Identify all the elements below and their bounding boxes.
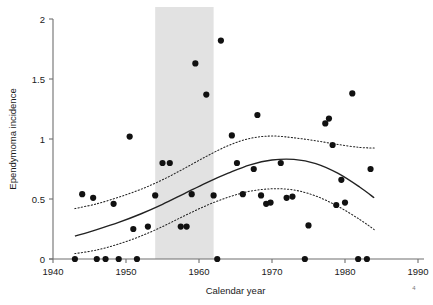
y-tick-label: 2: [40, 14, 45, 25]
x-axis-title: Calendar year: [206, 285, 266, 296]
data-point: [189, 191, 195, 197]
data-point: [203, 92, 209, 98]
data-point: [254, 112, 260, 118]
data-point: [178, 224, 184, 230]
data-point: [258, 192, 264, 198]
data-point: [116, 256, 122, 262]
data-point: [251, 166, 257, 172]
data-point: [305, 222, 311, 228]
data-point: [355, 256, 361, 262]
data-point: [72, 256, 78, 262]
data-point: [302, 256, 308, 262]
x-tick-label: 1960: [188, 266, 209, 277]
data-point: [278, 160, 284, 166]
data-point: [102, 256, 108, 262]
data-point: [130, 226, 136, 232]
data-point: [79, 191, 85, 197]
data-point: [364, 256, 370, 262]
y-tick-label: 1: [40, 134, 45, 145]
y-tick-label: 1.5: [32, 74, 45, 85]
data-point: [289, 194, 295, 200]
data-point: [326, 116, 332, 122]
y-axis-title: Ependymoma incidence: [7, 88, 18, 189]
x-tick-label: 1940: [42, 266, 63, 277]
data-point: [229, 132, 235, 138]
data-point: [329, 142, 335, 148]
data-point: [90, 195, 96, 201]
data-point: [211, 192, 217, 198]
data-point: [183, 224, 189, 230]
y-tick-label: 0.5: [32, 194, 45, 205]
data-point: [367, 166, 373, 172]
data-point: [127, 134, 133, 140]
data-point: [110, 201, 116, 207]
data-point: [218, 38, 224, 44]
data-point: [145, 224, 151, 230]
x-tick-label: 1980: [334, 266, 355, 277]
data-point: [167, 160, 173, 166]
data-point: [284, 195, 290, 201]
data-point: [134, 256, 140, 262]
shaded-period-band: [155, 7, 213, 259]
x-tick-label: 1970: [261, 266, 282, 277]
data-point: [159, 160, 165, 166]
data-point: [349, 90, 355, 96]
x-tick-label: 1990: [407, 266, 428, 277]
data-point: [234, 160, 240, 166]
data-point: [333, 202, 339, 208]
data-point: [192, 60, 198, 66]
y-tick-label: 0: [40, 254, 45, 265]
data-point: [214, 256, 220, 262]
data-point: [152, 192, 158, 198]
data-point: [338, 177, 344, 183]
scatter-plot-canvas: 00.511.52 194019501960197019801990 Calen…: [0, 0, 433, 305]
data-point: [267, 200, 273, 206]
x-tick-label: 1950: [115, 266, 136, 277]
data-point: [94, 256, 100, 262]
chart-figure: 00.511.52 194019501960197019801990 Calen…: [0, 0, 433, 305]
data-point: [240, 191, 246, 197]
data-point: [342, 200, 348, 206]
